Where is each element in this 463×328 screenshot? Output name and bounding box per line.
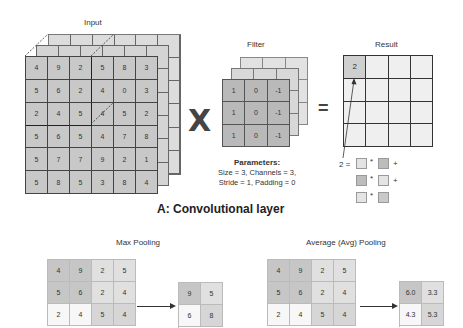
matrix-cell: 5: [48, 282, 70, 304]
matrix-cell: 5: [334, 260, 356, 282]
matrix-cell: 6.0: [400, 282, 422, 304]
matrix-cell: 8: [201, 305, 223, 327]
equation-square: [378, 158, 389, 169]
avg-pooling-input-grid: 492556242454: [267, 259, 356, 326]
matrix-cell: 3.3: [422, 282, 444, 304]
matrix-cell: 6: [179, 305, 201, 327]
avg-pooling-label: Average (Avg) Pooling: [306, 238, 386, 247]
equation-square: [356, 192, 367, 203]
matrix-cell: 4: [114, 304, 136, 326]
matrix-cell: 2: [92, 282, 114, 304]
matrix-cell: 2: [92, 260, 114, 282]
times-icon: *: [370, 191, 373, 200]
matrix-cell: 5: [268, 282, 290, 304]
matrix-cell: 6: [290, 282, 312, 304]
matrix-cell: 2: [268, 304, 290, 326]
matrix-cell: 9: [70, 260, 92, 282]
matrix-cell: 5: [92, 304, 114, 326]
equation-square: [356, 175, 367, 186]
avg-pooling-arrow: [360, 306, 392, 307]
matrix-cell: 9: [290, 260, 312, 282]
matrix-cell: 2: [312, 282, 334, 304]
matrix-cell: 4: [268, 260, 290, 282]
max-pooling-output-grid: 9568: [178, 282, 223, 328]
matrix-cell: 4: [290, 304, 312, 326]
matrix-cell: 4: [114, 282, 136, 304]
matrix-cell: 5: [114, 260, 136, 282]
equation-square: [378, 175, 389, 186]
matrix-cell: 2: [48, 304, 70, 326]
times-icon: *: [370, 157, 373, 166]
matrix-cell: 4: [70, 304, 92, 326]
matrix-cell: 4.3: [400, 304, 422, 326]
matrix-cell: 5: [312, 304, 334, 326]
times-icon: *: [370, 174, 373, 183]
max-pooling-input-grid: 492556242454: [47, 259, 136, 326]
matrix-cell: 4: [334, 282, 356, 304]
matrix-cell: 4: [48, 260, 70, 282]
matrix-cell: 5.3: [422, 304, 444, 326]
equation-square: [378, 192, 389, 203]
avg-pooling-output-grid: 6.03.34.35.3: [399, 281, 444, 327]
max-pooling-label: Max Pooling: [116, 238, 160, 247]
matrix-cell: 5: [201, 283, 223, 305]
arrow-head-icon: [170, 303, 176, 309]
arrow-head-icon: [392, 303, 398, 309]
conv-layer-title: A: Convolutional layer: [157, 202, 284, 216]
matrix-cell: 4: [334, 304, 356, 326]
matrix-cell: 6: [70, 282, 92, 304]
equation-lhs: 2 =: [339, 160, 350, 169]
plus-icon: +: [393, 159, 398, 168]
equation-square: [356, 158, 367, 169]
matrix-cell: 9: [179, 283, 201, 305]
max-pooling-arrow: [137, 306, 170, 307]
plus-icon: +: [393, 176, 398, 185]
matrix-cell: 2: [312, 260, 334, 282]
